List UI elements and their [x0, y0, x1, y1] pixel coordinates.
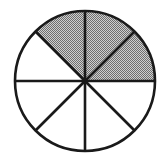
- fraction-circle-figure: [0, 0, 168, 167]
- circle-diagram: [0, 0, 168, 167]
